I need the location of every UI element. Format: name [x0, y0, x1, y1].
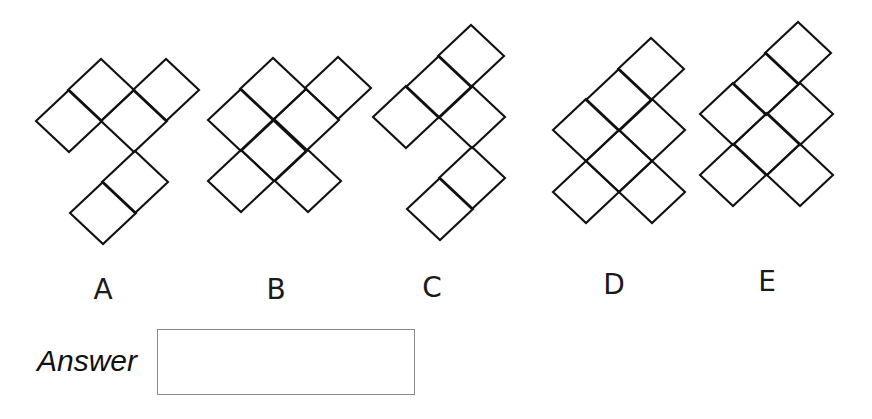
net-square [241, 119, 307, 181]
answer-label: Answer [37, 346, 137, 376]
net-square [407, 178, 473, 240]
figure-b [208, 57, 371, 212]
net-square [208, 150, 274, 212]
net-square [70, 182, 136, 244]
net-square [101, 90, 167, 152]
net-square [700, 144, 766, 206]
net-square [619, 99, 685, 161]
net-square [438, 25, 504, 87]
figure-label-d: D [603, 271, 625, 299]
net-square [618, 38, 684, 100]
net-square [102, 151, 168, 213]
net-square [36, 90, 102, 152]
net-figures [0, 0, 872, 260]
net-square [700, 83, 766, 145]
net-square [273, 89, 339, 151]
net-square [68, 59, 134, 121]
net-square [619, 161, 685, 223]
net-square [733, 53, 799, 115]
net-square [767, 83, 833, 145]
figure-label-b: B [266, 276, 285, 304]
figure-a [36, 59, 199, 244]
figure-label-a: A [93, 276, 112, 304]
net-square [439, 86, 505, 148]
net-square [439, 147, 505, 209]
figure-c [373, 25, 505, 240]
net-square [553, 99, 619, 161]
figure-label-e: E [758, 268, 776, 296]
net-square [586, 130, 652, 192]
net-square [373, 86, 439, 148]
net-square [305, 57, 371, 119]
net-square [208, 89, 274, 151]
figure-label-c: C [422, 274, 442, 302]
net-square [240, 58, 306, 120]
net-square [133, 59, 199, 121]
answer-input[interactable] [157, 329, 415, 395]
net-square [275, 150, 341, 212]
net-square [586, 69, 652, 131]
net-square [765, 22, 831, 84]
net-square [734, 113, 800, 175]
net-square [406, 56, 472, 118]
figure-e [700, 22, 833, 206]
figure-d [553, 38, 685, 223]
net-square [767, 144, 833, 206]
net-square [553, 161, 619, 223]
